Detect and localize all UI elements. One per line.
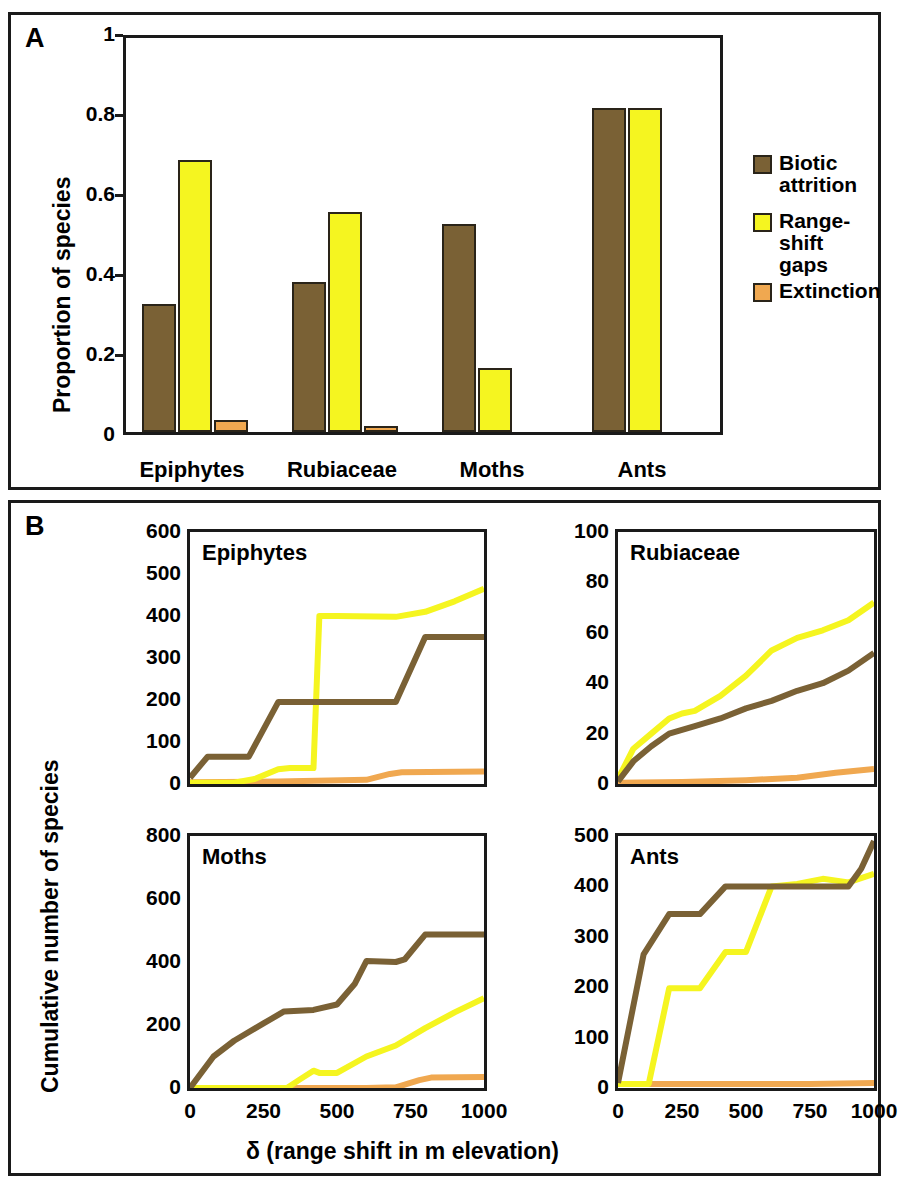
subplot-ants-y-tick-label: 200 (525, 974, 609, 998)
series-line-biotic-attrition (190, 637, 484, 778)
panel-a-y-tick-mark (115, 34, 123, 37)
subplot-ants-y-tick-label: 500 (525, 823, 609, 847)
bar-epiphytes-range-shift-gaps (178, 160, 212, 432)
bar-epiphytes-biotic-attrition (142, 304, 176, 432)
subplot-epiphytes-y-tick-label: 100 (97, 729, 181, 753)
subplot-epiphytes-y-tick-label: 0 (97, 771, 181, 795)
subplot-ants-x-tick-label: 1000 (824, 1099, 902, 1123)
legend-swatch-icon (753, 155, 772, 174)
bar-rubiaceae-biotic-attrition (292, 282, 326, 432)
panel-a-y-tick-label: 0.8 (37, 102, 115, 126)
series-line-range-shift-gaps (618, 603, 874, 779)
subplot-lines-moths (190, 836, 484, 1088)
panel-a-y-tick-mark (115, 354, 123, 357)
bar-rubiaceae-range-shift-gaps (328, 212, 362, 432)
panel-a-y-tick-mark (115, 274, 123, 277)
subplot-ants-y-tick-label: 0 (525, 1075, 609, 1099)
panel-a-y-tick-label: 1 (37, 22, 115, 46)
subplot-moths-y-tick-label: 400 (97, 949, 181, 973)
subplot-epiphytes: Epiphytes (187, 529, 487, 787)
series-line-range-shift-gaps (618, 874, 874, 1084)
panel-a-category-label-moths: Moths (412, 457, 572, 483)
bar-epiphytes-extinction (214, 420, 248, 432)
series-line-biotic-attrition (190, 935, 484, 1088)
panel-a: A Proportion of species 00.20.40.60.81 E… (8, 12, 881, 490)
subplot-rubiaceae-y-tick-label: 100 (525, 519, 609, 543)
subplot-epiphytes-y-tick-label: 600 (97, 519, 181, 543)
subplot-rubiaceae-y-tick-label: 20 (525, 721, 609, 745)
panel-a-y-tick-label: 0 (37, 422, 115, 446)
panel-a-category-label-rubiaceae: Rubiaceae (262, 457, 422, 483)
panel-b-x-axis-title: δ (range shift in m elevation) (246, 1138, 559, 1165)
legend-label: Range-shift gaps (779, 210, 850, 276)
subplot-moths-y-tick-label: 200 (97, 1012, 181, 1036)
subplot-ants-y-tick-label: 100 (525, 1025, 609, 1049)
panel-a-y-axis-title: Proportion of species (49, 177, 76, 413)
subplot-rubiaceae-y-tick-label: 0 (525, 771, 609, 795)
series-line-range-shift-gaps (190, 589, 484, 783)
bar-moths-range-shift-gaps (478, 368, 512, 432)
subplot-lines-epiphytes (190, 532, 484, 784)
subplot-moths-y-tick-label: 0 (97, 1075, 181, 1099)
bar-moths-biotic-attrition (442, 224, 476, 432)
bar-ants-biotic-attrition (592, 108, 626, 432)
panel-a-category-label-ants: Ants (562, 457, 722, 483)
subplot-epiphytes-y-tick-label: 500 (97, 561, 181, 585)
subplot-moths: Moths (187, 833, 487, 1091)
series-line-extinction (618, 769, 874, 783)
subplot-moths-y-tick-label: 800 (97, 823, 181, 847)
subplot-rubiaceae-y-tick-label: 80 (525, 569, 609, 593)
subplot-ants-y-tick-label: 400 (525, 873, 609, 897)
panel-b-y-axis-title: Cumulative number of species (37, 759, 64, 1093)
series-line-extinction (618, 1083, 874, 1084)
subplot-moths-x-tick-label: 1000 (434, 1099, 534, 1123)
panel-a-category-label-epiphytes: Epiphytes (112, 457, 272, 483)
panel-a-y-tick-label: 0.6 (37, 182, 115, 206)
panel-b: B Cumulative number of species δ (range … (8, 500, 881, 1176)
legend-label: Extinction (779, 280, 881, 302)
panel-a-plot-area (123, 35, 723, 435)
subplot-moths-y-tick-label: 600 (97, 886, 181, 910)
subplot-ants: Ants (615, 833, 877, 1091)
panel-b-letter: B (25, 511, 45, 542)
subplot-epiphytes-y-tick-label: 400 (97, 603, 181, 627)
panel-a-y-tick-mark (115, 114, 123, 117)
subplot-lines-rubiaceae (618, 532, 874, 784)
subplot-epiphytes-y-tick-label: 200 (97, 687, 181, 711)
subplot-rubiaceae-y-tick-label: 40 (525, 670, 609, 694)
subplot-lines-ants (618, 836, 874, 1088)
bar-rubiaceae-extinction (364, 426, 398, 432)
legend-swatch-icon (753, 283, 772, 302)
panel-a-y-tick-label: 0.4 (37, 262, 115, 286)
subplot-rubiaceae-y-tick-label: 60 (525, 620, 609, 644)
bar-ants-range-shift-gaps (628, 108, 662, 432)
subplot-epiphytes-y-tick-label: 300 (97, 645, 181, 669)
legend-label: Biotic attrition (779, 152, 857, 196)
legend-swatch-icon (753, 213, 772, 232)
panel-a-y-tick-mark (115, 194, 123, 197)
panel-a-y-tick-label: 0.2 (37, 342, 115, 366)
subplot-ants-y-tick-label: 300 (525, 924, 609, 948)
subplot-rubiaceae: Rubiaceae (615, 529, 877, 787)
